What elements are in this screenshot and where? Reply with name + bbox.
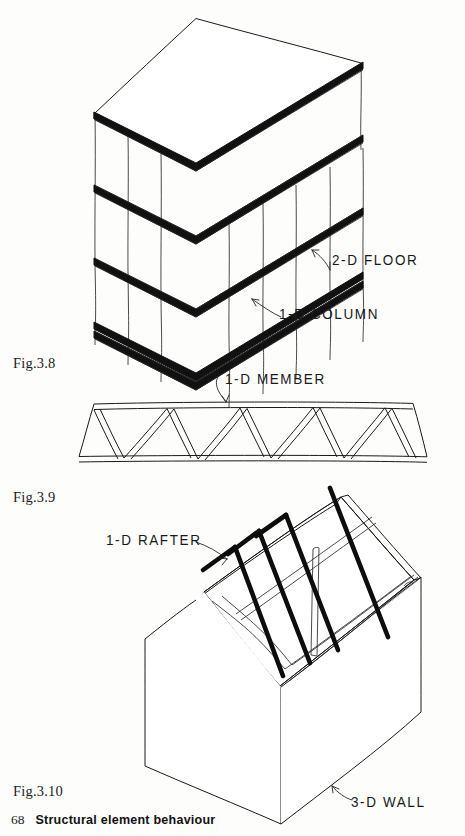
figure-caption-3-9: Fig.3.9 <box>13 489 56 506</box>
wall-leader-line <box>332 786 352 800</box>
floor-leader-line <box>312 250 330 270</box>
page-number: 68 <box>11 812 25 828</box>
column-leader-line <box>252 299 281 317</box>
running-title: Structural element behaviour <box>36 813 216 827</box>
annotation-1d-column: 1-D COLUMN <box>279 306 379 323</box>
figure-caption-3-10: Fig.3.10 <box>13 783 63 800</box>
annotation-1d-rafter: 1-D RAFTER <box>106 532 202 549</box>
fig-3-8-building <box>94 18 364 408</box>
figure-caption-3-8: Fig.3.8 <box>13 355 56 372</box>
annotation-1d-member: 1-D MEMBER <box>225 371 326 388</box>
page-footer: 68 Structural element behaviour <box>11 812 215 828</box>
truss-diagonals <box>94 408 416 461</box>
page-canvas: 2-D FLOOR 1-D COLUMN 1-D MEMBER 1-D RAFT… <box>0 0 465 836</box>
figure-illustrations <box>0 0 465 836</box>
annotation-3d-wall: 3-D WALL <box>351 794 426 811</box>
annotation-2d-floor: 2-D FLOOR <box>332 252 418 269</box>
